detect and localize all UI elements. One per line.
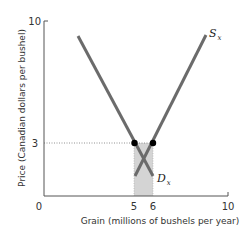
demand-label: Dx (156, 172, 171, 187)
y-tick-3: 3 (32, 138, 38, 149)
point-quantity-5 (131, 140, 137, 146)
y-axis-title: Price (Canadian dollars per bushel) (17, 29, 27, 187)
supply-label: Sx (209, 27, 222, 42)
y-tick-10: 10 (28, 16, 41, 27)
origin-label: 0 (36, 201, 42, 212)
x-tick-6: 6 (150, 201, 156, 212)
supply-curve (135, 35, 206, 176)
point-quantity-6 (150, 140, 156, 146)
x-tick-5: 5 (131, 201, 137, 212)
x-tick-10: 10 (222, 201, 235, 212)
demand-curve (78, 36, 153, 176)
supply-demand-chart: Sx Dx 10 3 0 5 6 10 Grain (millions of b… (0, 0, 248, 235)
x-axis-title: Grain (millions of bushels per year) (81, 216, 240, 226)
